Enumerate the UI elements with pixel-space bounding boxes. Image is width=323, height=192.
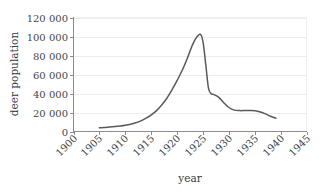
deer-population-line-chart: 020 00040 00060 00080 000100 000120 000 … — [0, 0, 323, 192]
y-tick-label: 40 000 — [33, 89, 68, 100]
chart-figure: 020 00040 00060 00080 000100 000120 000 … — [0, 0, 323, 192]
y-tick-label: 120 000 — [27, 13, 68, 24]
y-tick-label: 80 000 — [33, 51, 68, 62]
y-tick-label: 20 000 — [33, 108, 68, 119]
x-axis-title: year — [177, 172, 202, 184]
y-tick-label: 60 000 — [33, 70, 68, 81]
y-axis-title: deer population — [8, 32, 20, 117]
y-tick-label: 100 000 — [27, 32, 68, 43]
